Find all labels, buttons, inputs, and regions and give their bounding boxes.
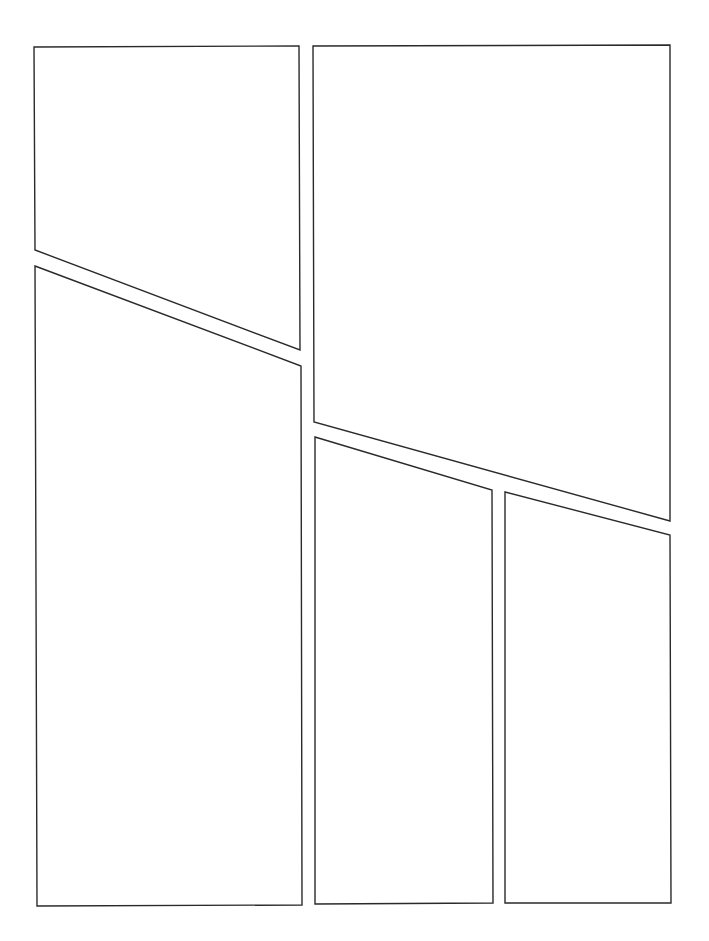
- panel-bottom-middle: [315, 437, 493, 904]
- panel-canvas: [0, 0, 709, 941]
- panel-bottom-left: [35, 266, 302, 906]
- panel-bottom-right: [505, 492, 671, 903]
- panel-top-right: [313, 45, 670, 521]
- comic-page-layout: [0, 0, 709, 941]
